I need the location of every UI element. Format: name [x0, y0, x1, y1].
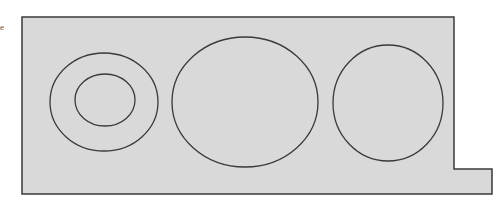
gray-panel [22, 17, 492, 194]
diagram-canvas [0, 0, 500, 205]
